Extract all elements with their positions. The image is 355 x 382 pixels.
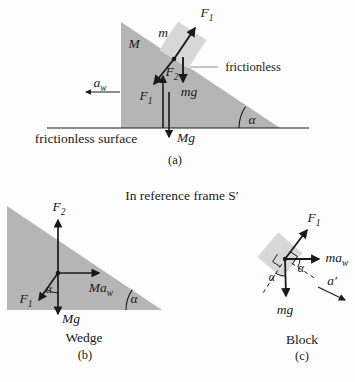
label-Mg-a: Mg [177,131,195,145]
frame-title: In reference frame S′ [125,189,239,203]
label-a-prime-c: a′ [327,274,337,288]
arrow-a-prime-c [318,287,345,300]
label-F1-top-a: F1 [201,6,214,20]
label-mg-c: mg [277,303,294,317]
arrow-mg-c [285,259,286,296]
label-maw-c: maw [326,251,349,265]
label-mg-a: mg [181,85,198,99]
label-alpha-b-corner: α [130,292,137,306]
figure-b-name: Wedge [65,331,102,345]
caption-a: (a) [168,154,182,167]
label-F1-reaction-a: F1 [140,89,153,103]
physics-wedge-figure: F1 m M frictionless aw F2 F1 mg Mg frict… [0,0,355,382]
label-F1-b: F1 [20,292,33,306]
label-alpha-c-right: α [298,262,304,274]
label-alpha-c-left: α [269,271,275,283]
label-frictionless: frictionless [225,61,281,74]
label-wedge-mass-M: M [128,37,139,51]
label-F2-b: F2 [53,200,66,214]
label-Mg-b: Mg [62,312,80,326]
label-block-mass-m: m [158,26,168,40]
label-F2-a: F2 [166,65,179,79]
label-Maw-b: Maw [89,281,113,295]
caption-b: (b) [78,349,93,362]
figure-c-name: Block [286,333,318,347]
label-F1-c: F1 [308,211,321,225]
label-frictionless-surface: frictionless surface [35,132,137,146]
caption-c: (c) [295,350,309,363]
label-aw-a: aw [93,76,106,90]
label-alpha-b-inner: α [46,283,52,295]
label-alpha-a: α [248,113,255,127]
